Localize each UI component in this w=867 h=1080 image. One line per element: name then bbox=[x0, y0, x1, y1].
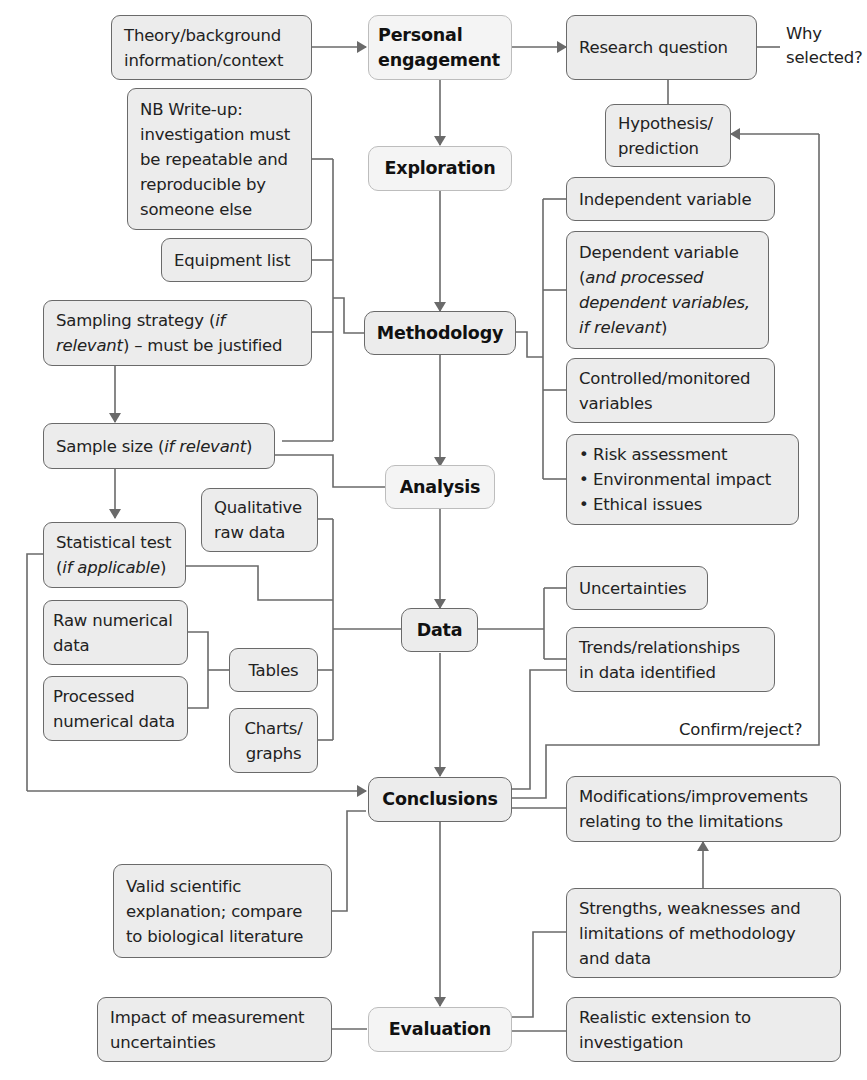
box-text: dependent variables, bbox=[579, 290, 750, 315]
box-text: Impact of measurement bbox=[110, 1005, 304, 1030]
box-text: Charts/ bbox=[244, 716, 302, 741]
why-selected-label: Why selected? bbox=[786, 22, 863, 70]
box-text: data bbox=[53, 633, 89, 658]
box-text: Statistical test bbox=[56, 530, 171, 555]
box-text: numerical data bbox=[53, 709, 175, 734]
stage-label: Evaluation bbox=[389, 1017, 491, 1042]
sample-size-box[interactable]: Sample size (if relevant) bbox=[43, 423, 275, 469]
label-text: selected? bbox=[786, 46, 863, 70]
box-text: relating to the limitations bbox=[579, 809, 783, 834]
bullet-item: Risk assessment bbox=[579, 442, 771, 467]
hypothesis-box[interactable]: Hypothesis/ prediction bbox=[605, 104, 731, 167]
box-text: Controlled/monitored bbox=[579, 366, 750, 391]
box-text: Qualitative bbox=[214, 495, 302, 520]
box-text: Strengths, weaknesses and bbox=[579, 896, 801, 921]
box-text: investigation must bbox=[140, 122, 290, 147]
box-text: explanation; compare bbox=[126, 899, 302, 924]
box-text: prediction bbox=[618, 136, 699, 161]
box-text: in data identified bbox=[579, 660, 716, 685]
box-text: Uncertainties bbox=[579, 576, 686, 601]
bullet-item: Environmental impact bbox=[579, 467, 771, 492]
stage-label: engagement bbox=[378, 48, 500, 73]
box-text: if relevant) bbox=[579, 315, 667, 340]
stage-label: Data bbox=[417, 618, 463, 643]
tables-box[interactable]: Tables bbox=[229, 648, 318, 692]
controlled-variables-box[interactable]: Controlled/monitored variables bbox=[566, 358, 775, 423]
stage-data[interactable]: Data bbox=[401, 608, 478, 652]
extension-box[interactable]: Realistic extension to investigation bbox=[566, 997, 841, 1062]
stage-label: Exploration bbox=[385, 156, 496, 181]
statistical-test-box[interactable]: Statistical test (if applicable) bbox=[43, 522, 186, 588]
box-text: Raw numerical bbox=[53, 608, 173, 633]
box-text: Dependent variable bbox=[579, 240, 739, 265]
box-text: uncertainties bbox=[110, 1030, 216, 1055]
sampling-strategy-box[interactable]: Sampling strategy (if relevant) – must b… bbox=[43, 300, 312, 366]
uncertainties-box[interactable]: Uncertainties bbox=[566, 566, 708, 610]
box-text: relevant) – must be justified bbox=[56, 333, 282, 358]
box-text: Realistic extension to bbox=[579, 1005, 751, 1030]
box-text: someone else bbox=[140, 197, 252, 222]
box-text: raw data bbox=[214, 520, 285, 545]
box-text: limitations of methodology bbox=[579, 921, 796, 946]
box-text: graphs bbox=[246, 741, 302, 766]
box-text: Independent variable bbox=[579, 187, 751, 212]
box-text: Valid scientific bbox=[126, 874, 241, 899]
independent-variable-box[interactable]: Independent variable bbox=[566, 177, 775, 221]
box-text: Sample size (if relevant) bbox=[56, 434, 252, 459]
valid-explanation-box[interactable]: Valid scientific explanation; compare to… bbox=[113, 864, 332, 958]
raw-numerical-data-box[interactable]: Raw numerical data bbox=[43, 600, 188, 665]
box-text: Modifications/improvements bbox=[579, 784, 808, 809]
stage-exploration[interactable]: Exploration bbox=[368, 146, 512, 191]
box-text: Processed bbox=[53, 684, 134, 709]
dependent-variable-box[interactable]: Dependent variable (and processed depend… bbox=[566, 231, 769, 349]
nb-writeup-box[interactable]: NB Write-up: investigation must be repea… bbox=[127, 88, 312, 230]
box-text: investigation bbox=[579, 1030, 683, 1055]
stage-analysis[interactable]: Analysis bbox=[385, 465, 495, 509]
theory-box[interactable]: Theory/background information/context bbox=[111, 15, 312, 80]
box-text: Trends/relationships bbox=[579, 635, 740, 660]
box-text: Research question bbox=[579, 35, 728, 60]
box-text: Hypothesis/ bbox=[618, 111, 713, 136]
stage-conclusions[interactable]: Conclusions bbox=[368, 777, 512, 822]
box-text: Equipment list bbox=[174, 248, 290, 273]
stage-label: Methodology bbox=[377, 321, 503, 346]
bullet-list: Risk assessment Environmental impact Eth… bbox=[579, 442, 771, 517]
equipment-list-box[interactable]: Equipment list bbox=[161, 238, 312, 282]
label-text: Confirm/reject? bbox=[679, 720, 802, 739]
box-text: (if applicable) bbox=[56, 555, 166, 580]
stage-methodology[interactable]: Methodology bbox=[364, 311, 516, 355]
box-text: information/context bbox=[124, 48, 283, 73]
processed-numerical-data-box[interactable]: Processed numerical data bbox=[43, 676, 188, 741]
box-text: variables bbox=[579, 391, 652, 416]
bullet-item: Ethical issues bbox=[579, 492, 771, 517]
stage-label: Conclusions bbox=[382, 787, 497, 812]
box-text: and data bbox=[579, 946, 651, 971]
label-text: Why bbox=[786, 22, 863, 46]
qualitative-raw-data-box[interactable]: Qualitative raw data bbox=[201, 488, 318, 552]
box-text: be repeatable and bbox=[140, 147, 288, 172]
trends-box[interactable]: Trends/relationships in data identified bbox=[566, 627, 775, 692]
risk-environment-ethics-box[interactable]: Risk assessment Environmental impact Eth… bbox=[566, 434, 799, 525]
confirm-reject-label: Confirm/reject? bbox=[679, 718, 802, 742]
box-text: to biological literature bbox=[126, 924, 303, 949]
modifications-box[interactable]: Modifications/improvements relating to t… bbox=[566, 776, 841, 842]
stage-label: Analysis bbox=[400, 475, 480, 500]
impact-uncertainties-box[interactable]: Impact of measurement uncertainties bbox=[97, 997, 332, 1062]
box-text: Tables bbox=[248, 658, 298, 683]
box-text: reproducible by bbox=[140, 172, 266, 197]
charts-graphs-box[interactable]: Charts/ graphs bbox=[229, 708, 318, 773]
stage-evaluation[interactable]: Evaluation bbox=[368, 1007, 512, 1052]
box-text: Theory/background bbox=[124, 23, 281, 48]
stage-personal-engagement[interactable]: Personal engagement bbox=[368, 15, 512, 80]
stage-label: Personal bbox=[378, 23, 462, 48]
box-text: NB Write-up: bbox=[140, 97, 243, 122]
strengths-weaknesses-box[interactable]: Strengths, weaknesses and limitations of… bbox=[566, 888, 841, 978]
research-question-box[interactable]: Research question bbox=[566, 15, 757, 80]
box-text: (and processed bbox=[579, 265, 703, 290]
box-text: Sampling strategy (if bbox=[56, 308, 225, 333]
